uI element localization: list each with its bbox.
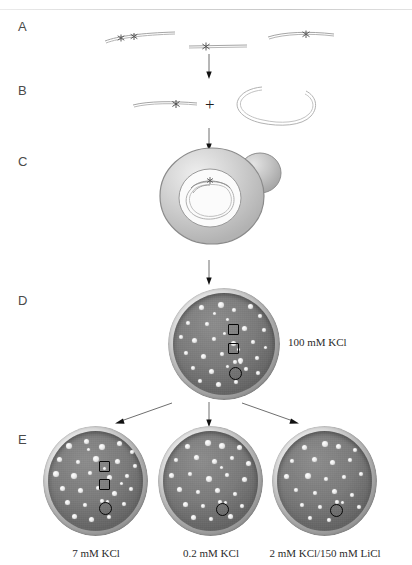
colony [184,351,188,355]
colony [183,502,188,507]
petri-dish-7mm-kcl[interactable] [43,426,148,536]
colony [300,503,304,507]
circle-highlight [229,367,242,380]
colony [248,304,253,309]
petri-dish-2mm-kcl-150mm-licl[interactable] [272,426,377,536]
arrow-down-c-to-d [203,260,215,286]
petri-dish-100mm-kcl[interactable] [168,288,280,400]
colony [302,445,307,450]
budding-yeast-cell [155,143,285,249]
colony [256,371,260,375]
plate-caption-7mm-kcl: 7 mM KCl [72,548,120,559]
colony [226,365,229,368]
circle-highlight [330,504,343,517]
colony [308,516,312,520]
colony [246,461,251,466]
colony [258,314,262,318]
asterisk-icon [202,43,209,51]
colony [205,322,209,326]
colony [264,346,267,349]
colony [312,457,317,462]
colony [71,473,77,479]
colony [125,474,129,478]
colony [213,312,216,315]
colony [218,302,224,308]
colony [242,326,247,331]
colony [130,450,134,454]
colony [313,491,317,495]
colony [318,505,322,509]
colony [290,459,294,463]
colony [322,441,328,447]
colony [244,367,248,371]
colony [225,473,229,477]
colony [192,338,197,343]
petri-dish-02mm-kcl[interactable] [158,426,263,536]
colony [216,382,221,387]
circle-highlight [99,502,112,515]
colony [336,444,341,449]
colony [327,518,331,522]
colony [353,448,357,452]
colony [60,486,65,491]
square-highlight [99,461,110,472]
colony [262,328,266,332]
colony [87,448,90,451]
linear-dna-fragment-insert [132,98,198,112]
colony [201,354,206,359]
colony [115,459,120,464]
colony [99,444,105,450]
colony [342,475,346,479]
colony [89,517,94,522]
colony [129,487,133,491]
colony [240,504,244,508]
colony [72,514,77,519]
colony [228,514,233,519]
colony [198,379,202,383]
colony [332,489,337,494]
colony [226,318,229,321]
colony [179,335,183,339]
colony [107,515,111,519]
colony [350,493,354,497]
colony [177,487,182,492]
plate-grain-texture [48,431,143,531]
colony [120,482,123,485]
plate-agar [173,293,275,395]
colony [215,488,220,493]
linear-dna-fragment-2 [188,40,248,54]
colony [53,471,59,477]
colony [305,473,311,479]
colony [239,361,242,364]
colony [191,515,196,520]
panel-letter-d: D [18,294,28,307]
colony [169,473,174,478]
colony [57,457,62,462]
colony [219,443,225,449]
colony [223,332,226,335]
colony [212,337,216,341]
plus-operator: + [205,96,215,113]
arrow-down-a-to-b [203,54,215,80]
colony [220,466,223,469]
plate-grain-texture [173,293,275,395]
figure-root: A [0,0,412,565]
circle-highlight [216,503,229,516]
colony [330,460,335,465]
colony [294,488,298,492]
colony [348,458,352,462]
colony [78,488,83,493]
linear-dna-fragment-3 [267,29,335,45]
colony [341,501,344,504]
colony [209,517,213,521]
colony [206,476,212,482]
plate-agar [48,431,143,531]
colony [83,503,87,507]
colony [233,492,237,496]
square-highlight [228,343,239,354]
panel-letter-b: B [18,84,27,97]
colony [65,500,70,505]
colony [174,458,178,462]
colony [133,464,137,468]
plate-caption-02mm-kcl: 0.2 mM KCl [183,548,239,559]
